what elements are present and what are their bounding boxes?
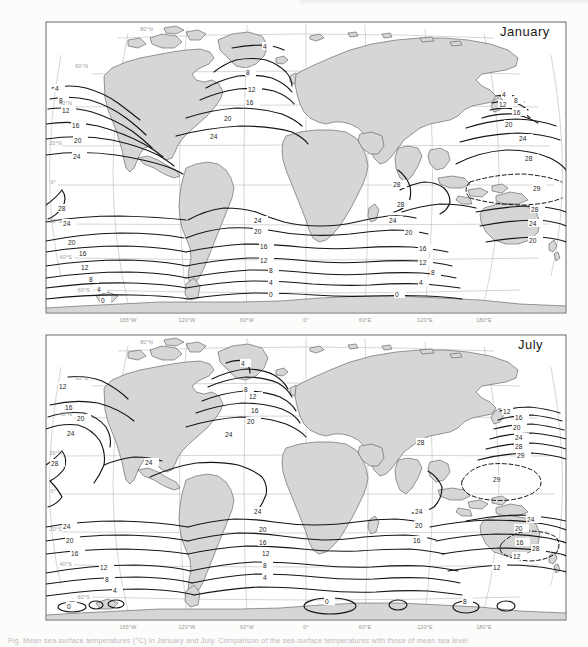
isotherm-label: 8	[463, 598, 467, 605]
longitude-label-july-5: 120°E	[417, 624, 433, 630]
isotherm-label: 24	[67, 430, 75, 437]
isotherm-label: 12	[81, 264, 89, 271]
figure-caption: Fig. Mean sea-surface temperatures (°C) …	[8, 636, 580, 647]
isotherm-label: 24	[519, 135, 527, 142]
longitude-labels-january: 165°W 120°W 60°W 0° 60°E 120°E 180°E	[119, 317, 492, 323]
isotherm-label: 16	[419, 245, 427, 252]
longitude-label-january-0: 165°W	[119, 317, 137, 323]
isotherm-label: 4	[241, 360, 245, 367]
longitude-label-july-4: 60°E	[359, 624, 372, 630]
isotherm-label: 8	[269, 267, 273, 274]
isotherm-label: 0	[101, 297, 105, 304]
longitude-labels-july: 165°W 120°W 60°W 0° 60°E 120°E 180°E	[119, 624, 492, 630]
isotherm-label: 24	[415, 508, 423, 515]
longitude-label-january-1: 120°W	[178, 317, 196, 323]
isotherm-label: 28	[515, 443, 523, 450]
isotherm-label: 12	[62, 107, 70, 114]
longitude-label-january-6: 180°E	[476, 317, 492, 323]
longitude-label-january-5: 120°E	[417, 317, 433, 323]
isotherm-label: 20	[224, 115, 232, 122]
isotherm-label: 8	[263, 562, 267, 569]
latitude-label-july-5: 20°S	[49, 526, 62, 532]
isotherm-label: 8	[105, 576, 109, 583]
isotherm-label: 8	[514, 97, 518, 104]
longitude-label-july-2: 60°W	[240, 624, 255, 630]
latitude-label-january-0: 80°N	[140, 26, 153, 32]
isotherm-label: 0	[325, 598, 329, 605]
isotherm-label: 16	[246, 99, 254, 106]
isotherm-label: 12	[100, 564, 108, 571]
longitude-label-july-1: 120°W	[178, 624, 196, 630]
latitude-label-january-7: 60°S	[77, 287, 90, 293]
isotherm-label: 24	[527, 516, 535, 523]
isotherm-label: 12	[248, 86, 256, 93]
latitude-label-january-1: 60°N	[75, 63, 88, 69]
isotherm-label: 12	[503, 408, 511, 415]
isotherm-label: 28	[397, 201, 405, 208]
latitude-label-january-5: 20°S	[49, 218, 62, 224]
latitude-label-july-1: 60°N	[75, 375, 88, 381]
july-map-svg: 12 16 20 24 28 24 20 16 12 8 4 0 4 8 12 …	[0, 325, 588, 647]
isotherm-label: 20	[254, 228, 262, 235]
latitude-label-january-3: 20°N	[49, 140, 62, 146]
isotherm-label: 29	[533, 185, 541, 192]
isotherm-label: 16	[65, 404, 73, 411]
isotherm-label: 12	[499, 101, 507, 108]
isotherm-label: 8	[89, 276, 93, 283]
longitude-label-january-3: 0°	[303, 317, 309, 323]
isotherm-label: 24	[63, 523, 71, 530]
isotherm-label: 16	[516, 539, 524, 546]
isotherm-label: 4	[97, 286, 101, 293]
isotherm-label: 0	[395, 291, 399, 298]
latitude-label-july-7: 60°S	[77, 594, 90, 600]
isotherm-label: 20	[247, 418, 255, 425]
isotherm-label: 4	[55, 85, 59, 92]
isotherm-label: 24	[389, 217, 397, 224]
isotherm-label: 12	[260, 257, 268, 264]
isotherm-label: 24	[225, 431, 233, 438]
isotherm-label: 12	[59, 383, 67, 390]
map-title-july: July	[518, 337, 543, 352]
isotherm-label: 16	[71, 550, 79, 557]
isotherm-label: 24	[145, 459, 153, 466]
latitude-label-july-4: 0°	[50, 488, 56, 494]
isotherm-label: 20	[259, 526, 267, 533]
isotherm-label: 24	[63, 220, 71, 227]
isotherm-label: 20	[529, 237, 537, 244]
isotherm-label: 28	[417, 439, 425, 446]
isotherm-label: 28	[51, 460, 59, 467]
panel-july: 12 16 20 24 28 24 20 16 12 8 4 0 4 8 12 …	[0, 325, 588, 647]
isotherm-label: 28	[58, 205, 66, 212]
longitude-label-january-4: 60°E	[359, 317, 372, 323]
isotherm-label: 8	[431, 269, 435, 276]
latitude-label-july-3: 20°N	[49, 450, 62, 456]
isotherm-label: 28	[393, 181, 401, 188]
isotherm-label: 16	[72, 122, 80, 129]
isotherm-label: 12	[262, 550, 270, 557]
isotherm-label: 24	[515, 434, 523, 441]
longitude-label-july-6: 180°E	[476, 624, 492, 630]
latitude-label-january-6: 40°S	[59, 254, 72, 260]
isotherm-label: 20	[505, 121, 513, 128]
isotherm-label: 20	[66, 537, 74, 544]
isotherm-label: 16	[251, 407, 259, 414]
longitude-label-july-3: 0°	[303, 624, 309, 630]
isotherm-label: 16	[79, 250, 87, 257]
isotherm-label: 29	[517, 452, 525, 459]
isotherm-label: 24	[73, 153, 81, 160]
latitude-label-july-0: 80°N	[140, 339, 153, 345]
isotherm-label: 4	[263, 574, 267, 581]
panel-january: 4 8 12 16 20 24 28 24 20 16 12 8 4 0 4 8…	[0, 0, 588, 325]
isotherm-label: 24	[254, 217, 262, 224]
isotherm-label: 16	[259, 539, 267, 546]
isotherm-label: 4	[502, 91, 506, 98]
isotherm-label: 8	[244, 386, 248, 393]
isotherm-label: 0	[269, 291, 273, 298]
isotherm-label: 16	[413, 537, 421, 544]
isotherm-label: 20	[77, 415, 85, 422]
longitude-label-july-0: 165°W	[119, 624, 137, 630]
isotherm-label: 20	[515, 525, 523, 532]
isotherm-label: 20	[513, 424, 521, 431]
latitude-label-january-4: 0°	[50, 179, 56, 185]
isotherm-label: 4	[419, 279, 423, 286]
